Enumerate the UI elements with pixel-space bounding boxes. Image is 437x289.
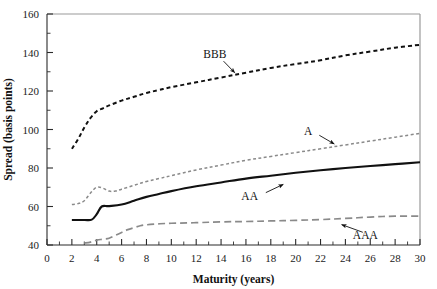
series-label-aaa: AAA	[353, 229, 379, 241]
y-tick-label: 160	[23, 8, 40, 20]
x-tick-label: 18	[265, 252, 277, 264]
y-axis-title: Spread (basis points)	[2, 78, 15, 181]
series-label-aa: AA	[241, 190, 258, 202]
y-tick-label: 80	[28, 162, 40, 174]
series-line-bbb	[72, 45, 420, 149]
axes	[47, 14, 420, 245]
series-arrow-bbb	[224, 61, 235, 73]
x-tick-label: 26	[365, 252, 377, 264]
series-arrow-a	[319, 135, 334, 144]
x-tick-label: 10	[166, 252, 178, 264]
y-tick-label: 120	[23, 85, 40, 97]
x-axis-title: Maturity (years)	[193, 273, 275, 286]
x-tick-label: 0	[44, 252, 50, 264]
series-label-bbb: BBB	[203, 48, 226, 60]
x-tick-label: 22	[315, 252, 326, 264]
y-tick-label: 60	[28, 201, 40, 213]
series-group	[72, 45, 420, 243]
chart-figure: 0246810121416182022242628304060801001201…	[0, 0, 437, 289]
series-arrow-aa	[266, 184, 283, 192]
series-label-a: A	[304, 125, 313, 137]
spread-vs-maturity-chart: 0246810121416182022242628304060801001201…	[0, 0, 437, 289]
x-tick-label: 24	[340, 252, 352, 264]
x-tick-label: 2	[69, 252, 75, 264]
y-axis-ticks: 406080100120140160	[23, 8, 54, 251]
x-tick-label: 6	[119, 252, 125, 264]
x-axis-ticks: 024681012141618202224262830	[44, 239, 426, 264]
plot-frame	[47, 14, 420, 245]
x-tick-label: 30	[415, 252, 427, 264]
x-tick-label: 4	[94, 252, 100, 264]
y-tick-label: 100	[23, 124, 40, 136]
x-tick-label: 12	[191, 252, 202, 264]
series-annotations: BBBAAAAAA	[203, 48, 378, 241]
x-tick-label: 28	[390, 252, 402, 264]
x-tick-label: 16	[240, 252, 252, 264]
y-tick-label: 40	[28, 239, 40, 251]
x-tick-label: 14	[216, 252, 228, 264]
y-tick-label: 140	[23, 47, 40, 59]
x-tick-label: 20	[290, 252, 302, 264]
x-tick-label: 8	[144, 252, 150, 264]
